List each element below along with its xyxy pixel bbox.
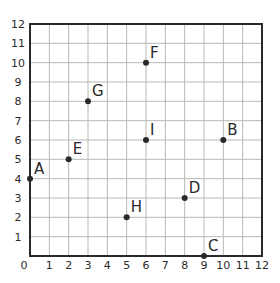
- point-marker: [85, 98, 91, 104]
- y-axis-tick-labels: 123456789101112: [11, 18, 25, 244]
- point-label: C: [208, 237, 218, 255]
- y-tick-label: 5: [15, 153, 22, 166]
- point-label: H: [131, 198, 142, 216]
- x-tick-label: 0: [21, 259, 28, 272]
- x-axis-tick-labels: 0123456789101112: [21, 259, 270, 272]
- point-marker: [220, 137, 226, 143]
- x-tick-label: 2: [65, 259, 72, 272]
- x-tick-label: 7: [162, 259, 169, 272]
- point-marker: [201, 253, 207, 259]
- x-tick-label: 1: [46, 259, 53, 272]
- y-tick-label: 3: [15, 192, 22, 205]
- y-tick-label: 9: [15, 76, 22, 89]
- x-tick-label: 12: [255, 259, 269, 272]
- x-tick-label: 4: [104, 259, 111, 272]
- x-tick-label: 8: [181, 259, 188, 272]
- x-tick-label: 11: [236, 259, 250, 272]
- x-tick-label: 3: [85, 259, 92, 272]
- y-tick-label: 2: [15, 211, 22, 224]
- point-marker: [27, 176, 33, 182]
- plotted-points: ABCDEFGHI: [27, 44, 238, 259]
- point-label: A: [34, 160, 45, 178]
- y-tick-label: 6: [15, 134, 22, 147]
- y-tick-label: 1: [15, 231, 22, 244]
- point-marker: [143, 137, 149, 143]
- x-tick-label: 10: [216, 259, 230, 272]
- point-marker: [143, 60, 149, 66]
- point-label: E: [73, 140, 82, 158]
- point-marker: [124, 214, 130, 220]
- point-label: G: [92, 82, 104, 100]
- point-label: D: [189, 179, 201, 197]
- point-label: I: [150, 121, 154, 139]
- y-tick-label: 11: [11, 37, 25, 50]
- y-tick-label: 4: [15, 173, 22, 186]
- point-label: B: [227, 121, 237, 139]
- point-label: F: [150, 44, 159, 62]
- y-tick-label: 10: [11, 57, 25, 70]
- y-tick-label: 12: [11, 18, 25, 31]
- y-tick-label: 7: [15, 115, 22, 128]
- coordinate-grid: 0123456789101112 123456789101112 ABCDEFG…: [0, 0, 280, 283]
- point-marker: [66, 156, 72, 162]
- point-marker: [182, 195, 188, 201]
- y-tick-label: 8: [15, 95, 22, 108]
- x-tick-label: 5: [123, 259, 130, 272]
- x-tick-label: 9: [201, 259, 208, 272]
- x-tick-label: 6: [143, 259, 150, 272]
